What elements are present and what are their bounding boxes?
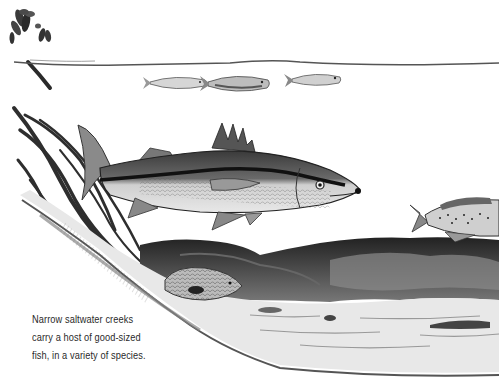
caption-line-2: carry a host of good-sized bbox=[32, 328, 173, 346]
propagule-icon bbox=[28, 62, 50, 88]
seatrout-fish bbox=[410, 197, 499, 242]
mangrove-leaves-icon bbox=[9, 8, 52, 44]
caption-line-3: fish, in a variety of species. bbox=[32, 346, 173, 364]
illustration-caption: Narrow saltwater creeks carry a host of … bbox=[32, 310, 173, 364]
baitfish-school bbox=[143, 74, 341, 91]
caption-line-1: Narrow saltwater creeks bbox=[32, 310, 173, 328]
